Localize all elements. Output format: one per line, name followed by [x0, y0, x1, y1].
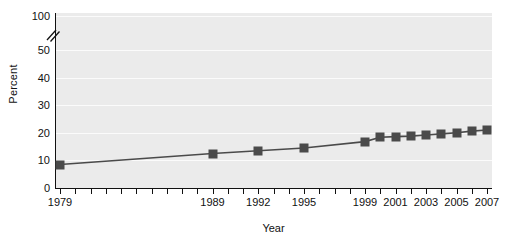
data-point-marker	[422, 131, 431, 140]
data-point-marker	[406, 132, 415, 141]
data-point-marker	[483, 126, 492, 135]
data-point-marker	[300, 143, 309, 152]
data-point-marker	[361, 137, 370, 146]
data-point-marker	[376, 133, 385, 142]
x-axis-title: Year	[55, 222, 492, 234]
data-point-marker	[437, 129, 446, 138]
data-point-marker	[56, 160, 65, 169]
series-line	[0, 0, 516, 244]
data-point-marker	[467, 127, 476, 136]
data-point-marker	[391, 132, 400, 141]
data-point-marker	[254, 146, 263, 155]
data-point-marker	[208, 149, 217, 158]
chart-figure: Percent 01020304050100 19791989199219951…	[0, 0, 516, 244]
data-point-marker	[452, 128, 461, 137]
